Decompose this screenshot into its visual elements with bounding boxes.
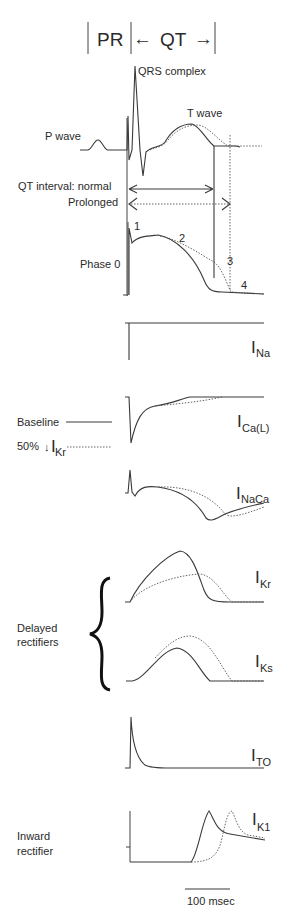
down-arrow-icon: ↓ [44,441,50,453]
reduction-percent: 50% [17,440,39,452]
i-k1-baseline-line [130,811,265,862]
interval-header: PR ← QT → [88,22,215,54]
ecg-trace: QRS complex T wave P wave QT interval: n… [18,65,262,296]
i-kr-baseline-line [125,551,264,602]
i-to-sub: TO [256,756,272,768]
qt-left-arrow-icon: ← [133,28,152,49]
i-naca-panel: I NaCa [125,470,270,520]
baseline-label: Baseline [17,416,59,428]
inward-label-line1: Inward [17,830,50,842]
qt-label: QT [160,29,187,50]
i-ks-baseline-line [126,648,264,681]
reduced-current-sub: Kr [55,446,66,458]
action-potential: Phase 0 1 2 3 4 [80,220,264,295]
i-na-panel: I Na [125,323,271,360]
i-ks-panel: I Ks [126,636,273,681]
scale-bar-label: 100 msec [187,895,235,907]
i-cal-baseline-line [125,397,264,443]
delayed-label-line2: rectifiers [17,636,59,648]
scale-bar: 100 msec [185,889,235,907]
phase1-label: 1 [134,220,140,232]
i-cal-sub: Ca(L) [242,422,270,434]
i-to-panel: I TO [125,717,272,768]
p-wave-label: P wave [45,130,81,142]
qt-prolonged-label: Prolonged [68,196,118,208]
curly-brace-icon [90,578,110,690]
qt-normal-arrow [129,185,213,193]
inward-label-line2: rectifier [17,845,53,857]
i-cal-panel: I Ca(L) [125,397,270,443]
inward-rectifier-group: Inward rectifier [17,830,53,857]
delayed-rectifiers-group: Delayed rectifiers [17,578,110,690]
i-cal-reduced-line [155,397,222,406]
pr-label: PR [97,29,123,50]
ecg-normal-line [80,66,240,176]
i-na-sub: Na [256,347,271,359]
phase2-label: 2 [179,232,185,244]
i-kr-reduced-line [130,574,264,602]
i-ks-reduced-line [155,636,264,681]
qrs-complex-label: QRS complex [138,65,206,77]
ap-prolonged-line [160,236,264,294]
i-kr-panel: I Kr [125,551,271,602]
delayed-label-line1: Delayed [17,622,57,634]
phase3-label: 3 [227,255,233,267]
i-ks-sub: Ks [260,662,273,674]
i-to-line [125,717,264,768]
legend: Baseline 50% ↓ I Kr [17,416,112,458]
i-naca-sub: NaCa [241,493,270,505]
qt-normal-label: QT interval: normal [18,180,111,192]
t-wave-label: T wave [187,107,222,119]
i-kr-sub: Kr [260,578,271,590]
phase4-label: 4 [241,279,247,291]
phase0-label: Phase 0 [80,258,120,270]
cardiac-figure: PR ← QT → QRS complex T wave P wave QT i… [0,0,293,924]
i-k1-sub: K1 [257,821,270,833]
i-k1-panel: I K1 [126,810,270,862]
qt-right-arrow-icon: → [194,28,213,49]
